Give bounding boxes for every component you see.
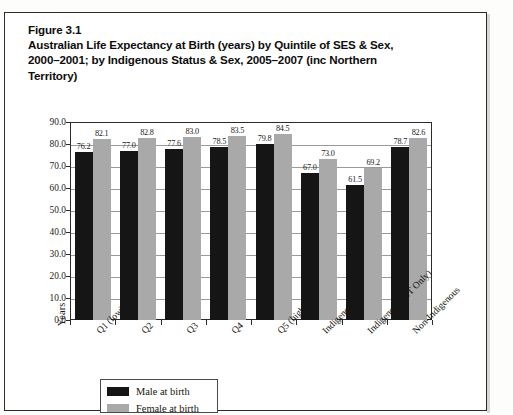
bar-group: 76.282.1 (70, 122, 115, 320)
figure-title-block: Figure 3.1 Australian Life Expectancy at… (28, 22, 448, 83)
bar-male (256, 144, 274, 320)
bar-value-label: 73.0 (315, 149, 341, 158)
figure-title-line-3: Territory) (28, 68, 448, 83)
bar-value-label: 82.6 (405, 128, 431, 137)
y-tick-label: 80.0 (50, 139, 66, 149)
bar-male (75, 152, 93, 320)
x-tick-mark (70, 320, 71, 325)
y-tick-mark (66, 298, 71, 299)
legend-item: Female at birth (107, 402, 199, 413)
chart-legend: Male at birthFemale at birth (100, 379, 218, 413)
bar-value-label: 69.2 (360, 158, 386, 167)
bar-group: 61.569.2 (342, 122, 387, 320)
bar-female (93, 139, 111, 320)
bar-group: 78.583.5 (206, 122, 251, 320)
y-tick-label: 0.0 (54, 315, 66, 325)
y-tick-label: 90.0 (50, 117, 66, 127)
y-tick-label: 10.0 (50, 293, 66, 303)
y-tick-mark (66, 188, 71, 189)
bar-value-label: 82.1 (89, 129, 115, 138)
y-tick-label: 20.0 (50, 271, 66, 281)
legend-label: Female at birth (136, 403, 199, 413)
legend-swatch-female (107, 404, 129, 413)
y-tick-label: 60.0 (50, 183, 66, 193)
bar-group: 77.082.8 (115, 122, 160, 320)
y-tick-mark (66, 166, 71, 167)
bar-male (301, 173, 319, 320)
figure-page: Figure 3.1 Australian Life Expectancy at… (0, 0, 513, 415)
bar-male (210, 147, 228, 320)
bar-value-label: 84.5 (270, 124, 296, 133)
legend-item: Male at birth (107, 385, 190, 398)
x-tick-mark (161, 320, 162, 325)
bar-female (319, 159, 337, 320)
y-tick-mark (66, 122, 71, 123)
bar-group: 67.073.0 (296, 122, 341, 320)
bar-female (228, 136, 246, 320)
legend-label: Male at birth (136, 386, 190, 397)
bar-group: 77.683.0 (161, 122, 206, 320)
y-tick-mark (66, 144, 71, 145)
bars-layer: 76.282.177.082.877.683.078.583.579.884.5… (70, 122, 432, 320)
bar-value-label: 82.8 (134, 128, 160, 137)
bar-male (165, 149, 183, 320)
y-tick-label: 70.0 (50, 161, 66, 171)
bar-female (364, 168, 382, 320)
y-tick-label: 40.0 (50, 227, 66, 237)
bar-female (138, 138, 156, 320)
y-tick-label: 50.0 (50, 205, 66, 215)
bar-female (274, 134, 292, 320)
bar-group: 79.884.5 (251, 122, 296, 320)
legend-swatch-male (107, 387, 129, 396)
bar-male (120, 151, 138, 320)
y-tick-mark (66, 232, 71, 233)
page-shadow (487, 14, 490, 413)
bar-female (183, 137, 201, 320)
x-tick-mark (206, 320, 207, 325)
bar-value-label: 83.5 (224, 126, 250, 135)
y-tick-label: 30.0 (50, 249, 66, 259)
x-tick-mark (251, 320, 252, 325)
bar-value-label: 83.0 (179, 127, 205, 136)
figure-title-line-1: Australian Life Expectancy at Birth (yea… (28, 37, 448, 52)
y-tick-mark (66, 276, 71, 277)
y-tick-mark (66, 254, 71, 255)
y-tick-mark (66, 210, 71, 211)
figure-title-line-2: 2000–2001; by Indigenous Status & Sex, 2… (28, 52, 448, 67)
figure-number: Figure 3.1 (28, 22, 448, 37)
